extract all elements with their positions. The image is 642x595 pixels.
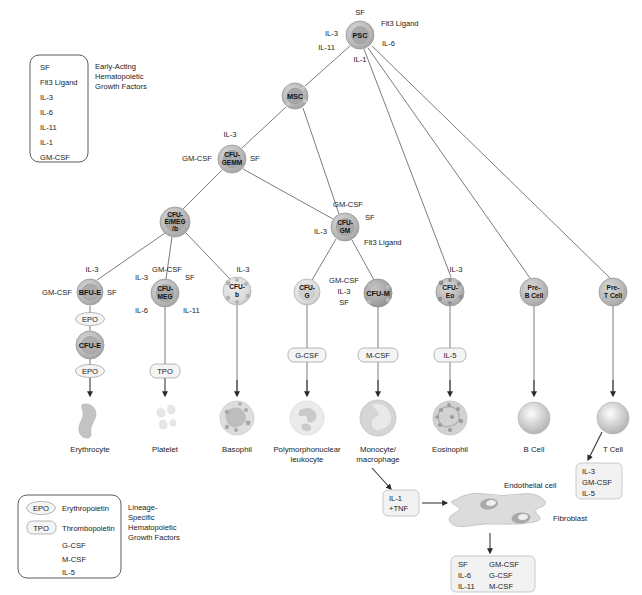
pill-tpo-label: TPO — [157, 367, 173, 376]
legend-bottom-caption-0: Lineage- — [128, 503, 158, 512]
node-cfu-emeg-label-3: /b — [172, 225, 178, 232]
stroma-cyt-c2-1: GM-CSF — [489, 560, 519, 569]
pill-mcsf[interactable]: M-CSF — [358, 348, 398, 362]
meg-il3: IL-3 — [135, 273, 148, 282]
legend-top-item-4: IL-11 — [40, 123, 57, 132]
node-cfu-e[interactable]: CFU-E — [76, 331, 104, 359]
node-cfu-b[interactable]: CFU- b — [223, 277, 251, 305]
gm-flt3: Flt3 Ligand — [364, 238, 402, 247]
gemm-il3: IL-3 — [223, 130, 236, 139]
node-cfu-gemm[interactable]: CFU- GEMM — [218, 145, 246, 173]
pill-epo-upper-label: EPO — [82, 315, 98, 324]
t-cell-cytokine-box[interactable]: IL-3 GM-CSF IL-5 — [576, 463, 622, 499]
psc-il3: IL-3 — [325, 29, 338, 38]
cfueo-il3: IL-3 — [449, 265, 462, 274]
meg-gmcsf: GM-CSF — [152, 265, 182, 274]
legend-bottom-abbr-4: IL-5 — [62, 568, 75, 577]
legend-top-item-5: IL-1 — [40, 138, 53, 147]
node-cfu-g-label-2: G — [304, 292, 309, 299]
meg-il6: IL-6 — [135, 306, 148, 315]
node-pre-b-cell[interactable]: Pre- B Cell — [520, 278, 548, 306]
node-msc-label: MSC — [287, 92, 304, 101]
psc-il11: IL-11 — [318, 43, 335, 52]
node-cfu-eo-label-1: CFU- — [442, 284, 458, 291]
legend-bottom-abbr-3: M-CSF — [62, 555, 86, 564]
cell-monocyte-macrophage: Monocyte/ macrophage — [356, 400, 399, 464]
node-psc-label: PSC — [352, 31, 368, 40]
meg-sf: SF — [185, 273, 195, 282]
cfum-il3: IL-3 — [337, 287, 350, 296]
node-cfu-meg[interactable]: CFU- MEG — [151, 279, 179, 307]
node-cfu-eo-label-2: Eo — [446, 292, 454, 299]
cell-basophil-label: Basophil — [222, 445, 252, 454]
psc-il1: IL-1 — [353, 55, 366, 64]
node-cfu-eo[interactable]: CFU- Eo — [436, 278, 464, 306]
node-cfu-m[interactable]: CFU-M — [364, 279, 392, 307]
pill-mcsf-label: M-CSF — [366, 351, 390, 360]
node-cfu-b-label-2: b — [235, 291, 239, 298]
il1-tnf-box[interactable]: IL-1 +TNF — [383, 490, 419, 516]
node-cfu-emeg[interactable]: CFU- E/MEG /b — [160, 207, 190, 237]
cell-pmn-label-1: Polymorphonuclear — [273, 445, 341, 454]
cell-erythrocyte: Erythrocyte — [70, 404, 109, 454]
cytokine-labels-cfu-b: IL-3 — [236, 265, 249, 274]
pill-tpo[interactable]: TPO — [150, 364, 180, 378]
pill-il5[interactable]: IL-5 — [434, 348, 466, 362]
legend-bottom-abbr-1: TPO — [33, 524, 49, 533]
cell-erythrocyte-label: Erythrocyte — [70, 445, 109, 454]
tnf-label: +TNF — [389, 504, 409, 513]
cell-monocyte-label-2: macrophage — [356, 455, 399, 464]
node-psc[interactable]: PSC — [346, 21, 374, 49]
pill-il5-label: IL-5 — [443, 351, 456, 360]
node-cfu-meg-label-2: MEG — [157, 293, 172, 300]
figure-canvas: PSC MSC CFU- GEMM CFU- E/MEG /b CFU- GM … — [0, 0, 642, 595]
cell-eosinophil: Eosinophil — [432, 401, 468, 454]
node-cfu-gm-label-2: GM — [340, 227, 351, 234]
node-bfu-e[interactable]: BFU-E — [77, 279, 103, 305]
legend-top-item-2: IL-3 — [40, 93, 53, 102]
gemm-sf: SF — [250, 154, 260, 163]
t-cell-output-arrow — [588, 432, 602, 460]
cfub-il3: IL-3 — [236, 265, 249, 274]
node-cfu-e-label: CFU-E — [79, 341, 101, 350]
meg-il11: IL-11 — [183, 306, 200, 315]
legend-top-caption-1: Hematopoietic — [95, 72, 144, 81]
node-pre-t-cell[interactable]: Pre- T Cell — [599, 278, 627, 306]
legend-bottom-abbr-2: G-CSF — [62, 541, 86, 550]
cytokine-labels-cfu-eo: IL-3 — [449, 265, 462, 274]
stromal-cytokine-box[interactable]: SF IL-6 IL-11 GM-CSF G-CSF M-CSF — [451, 556, 535, 592]
node-cfu-emeg-label-2: E/MEG — [164, 218, 185, 225]
gm-gmcsf: GM-CSF — [333, 200, 363, 209]
bfue-il3: IL-3 — [85, 265, 98, 274]
pill-gcsf[interactable]: G-CSF — [288, 348, 326, 362]
node-cfu-g-label-1: CFU- — [299, 284, 315, 291]
node-msc[interactable]: MSC — [282, 83, 308, 109]
legend-bottom-caption-3: Growth Factors — [128, 533, 180, 542]
endothelial-cell-label: Endothelial cell — [504, 481, 557, 490]
fibroblast-label: Fibroblast — [553, 514, 588, 523]
cell-b-cell-label: B Cell — [524, 445, 545, 454]
node-cfu-meg-label-1: CFU- — [157, 285, 173, 292]
node-cfu-gm[interactable]: CFU- GM — [331, 213, 359, 241]
cell-pmn-label-2: leukocyte — [291, 455, 324, 464]
t-cell-cytokine-3: IL-5 — [582, 489, 595, 498]
node-cfu-m-label: CFU-M — [366, 289, 390, 298]
cell-monocyte-label-1: Monocyte/ — [360, 445, 397, 454]
pill-epo-upper[interactable]: EPO — [76, 312, 105, 325]
legend-top-item-6: GM-CSF — [40, 153, 70, 162]
lineage-specific-legend[interactable]: EPO Erythropoietin TPO Thrombopoietin G-… — [18, 495, 180, 578]
early-acting-legend[interactable]: SF Flt3 Ligand IL-3 IL-6 IL-11 IL-1 GM-C… — [30, 55, 147, 162]
pill-epo-lower[interactable]: EPO — [76, 364, 105, 377]
cell-t-cell-label: T Cell — [603, 445, 623, 454]
legend-top-caption-2: Growth Factors — [95, 82, 147, 91]
legend-top-item-0: SF — [40, 63, 50, 72]
legend-top-item-3: IL-6 — [40, 108, 53, 117]
cell-platelet: Platelet — [152, 405, 179, 454]
legend-bottom-full-0: Erythropoietin — [62, 504, 109, 513]
cell-platelet-label: Platelet — [152, 445, 179, 454]
node-cfu-g[interactable]: CFU- G — [294, 279, 320, 305]
t-cell-cytokine-2: GM-CSF — [582, 478, 612, 487]
node-pre-b-label-1: Pre- — [528, 284, 541, 291]
stroma-cyt-c2-2: G-CSF — [489, 571, 513, 580]
node-pre-b-label-2: B Cell — [525, 292, 544, 299]
